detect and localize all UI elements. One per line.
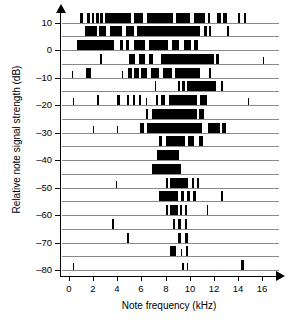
note-mark (151, 68, 159, 78)
note-mark (149, 40, 168, 50)
y-axis-label: Relative note signal strength (dB) (11, 30, 22, 250)
note-mark (216, 54, 218, 64)
y-axis-tick (55, 23, 60, 24)
row-baseline (62, 36, 279, 37)
note-mark (170, 246, 176, 256)
note-mark (166, 205, 168, 215)
chart-figure: 100–10–20–30–40–50–60–70–800246810121416… (0, 0, 299, 326)
note-mark (187, 191, 189, 201)
note-mark (137, 26, 201, 36)
row-baseline (62, 215, 279, 216)
note-mark (129, 54, 135, 64)
x-axis-tick-label: 8 (154, 284, 178, 294)
y-axis-tick-label: 10 (14, 18, 52, 28)
note-mark (157, 150, 179, 160)
y-axis-tick-label: –80 (14, 265, 52, 275)
note-mark (199, 109, 204, 119)
note-mark (181, 191, 183, 201)
note-mark (178, 219, 182, 229)
row-baseline (62, 188, 279, 189)
y-axis-tick (55, 215, 60, 216)
note-mark (244, 13, 246, 23)
note-mark (182, 81, 184, 91)
y-axis-tick (55, 243, 60, 244)
y-axis-tick (55, 270, 60, 271)
note-mark (99, 26, 106, 36)
note-mark (204, 26, 206, 36)
note-mark (166, 136, 185, 146)
note-mark (185, 205, 187, 215)
row-baseline (62, 78, 279, 79)
y-axis-arrow-icon (56, 4, 66, 13)
note-mark (208, 13, 210, 23)
x-axis-tick-label: 6 (129, 284, 153, 294)
note-mark (159, 191, 177, 201)
note-mark (149, 54, 154, 64)
x-axis-tick (190, 276, 191, 281)
note-mark (133, 95, 135, 105)
note-mark (166, 178, 168, 188)
note-mark (116, 181, 117, 188)
x-axis-tick (262, 276, 263, 281)
note-mark (72, 71, 73, 78)
note-mark (100, 54, 102, 64)
note-mark (141, 68, 147, 78)
note-mark (93, 126, 94, 133)
x-axis-tick (69, 276, 70, 281)
note-mark (73, 263, 74, 270)
note-mark (194, 40, 198, 50)
x-axis-tick-label: 14 (226, 284, 250, 294)
note-mark (126, 26, 134, 36)
note-mark (185, 219, 187, 229)
row-baseline (62, 133, 279, 134)
note-mark (146, 109, 148, 119)
note-mark (187, 81, 216, 91)
y-axis-tick (55, 78, 60, 79)
note-mark (105, 13, 131, 23)
note-mark (186, 246, 188, 256)
y-axis-tick (55, 50, 60, 51)
row-baseline (62, 50, 279, 51)
note-mark (181, 249, 182, 256)
row-baseline (62, 64, 279, 65)
note-mark (126, 40, 130, 50)
x-axis-tick (238, 276, 239, 281)
row-baseline (62, 160, 279, 161)
x-axis-tick-label: 4 (105, 284, 129, 294)
x-axis-label: Note frequency (kHz) (60, 300, 278, 311)
x-axis-tick-label: 16 (250, 284, 274, 294)
note-mark (176, 13, 189, 23)
note-mark (184, 40, 191, 50)
note-mark (173, 219, 175, 229)
note-mark (127, 95, 129, 105)
row-baseline (62, 91, 279, 92)
note-mark (172, 40, 179, 50)
note-mark (207, 205, 209, 215)
note-mark (134, 40, 145, 50)
note-mark (199, 136, 203, 146)
row-baseline (62, 105, 279, 106)
y-axis-tick (55, 133, 60, 134)
y-axis-line (60, 12, 61, 276)
note-mark (152, 109, 197, 119)
row-baseline (62, 174, 279, 175)
note-mark (147, 13, 172, 23)
note-mark (178, 233, 182, 243)
note-mark (147, 123, 201, 133)
note-mark (161, 54, 214, 64)
x-axis-tick (214, 276, 215, 281)
row-baseline (62, 229, 279, 230)
note-mark (97, 95, 99, 105)
note-mark (139, 54, 145, 64)
note-mark (139, 95, 141, 105)
row-baseline (62, 270, 279, 271)
x-axis-tick (93, 276, 94, 281)
y-axis-tick (55, 160, 60, 161)
note-mark (85, 26, 97, 36)
note-mark (152, 164, 181, 174)
note-mark (140, 123, 144, 133)
note-mark (170, 178, 188, 188)
note-mark (155, 81, 157, 91)
note-mark (127, 233, 129, 243)
note-mark (110, 26, 122, 36)
